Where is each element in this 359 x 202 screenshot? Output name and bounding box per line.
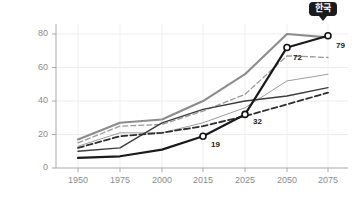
point-value-label: 72 [293,53,302,62]
point-value-label: 32 [253,117,262,126]
x-tick-label: 1950 [68,175,88,185]
x-tick-label: 2050 [277,175,297,185]
y-tick-label: 80 [38,28,48,38]
y-tick-label: 20 [38,129,48,139]
line-chart: 020406080 1950197520002015202520502075 7… [0,0,359,202]
x-tick-label: 2075 [318,175,338,185]
x-tick-label: 2000 [152,175,172,185]
korea-callout-label: 한국 [315,3,331,13]
point-value-label: 79 [336,41,345,50]
data-point-labels: 79723219 [211,41,345,149]
gridlines [56,34,348,134]
y-tick-label: 40 [38,95,48,105]
data-point-marker[interactable] [242,111,248,117]
callout-pointer-icon [319,16,327,21]
point-value-label: 19 [211,140,220,149]
x-axis-ticks: 1950197520002015202520502075 [68,24,338,185]
data-point-marker[interactable] [284,44,290,50]
chart-canvas: 020406080 1950197520002015202520502075 7… [0,0,359,202]
data-point-marker[interactable] [325,33,331,39]
y-axis-ticks: 020406080 [38,28,56,172]
korea-callout-badge[interactable]: 한국 [309,2,337,16]
data-point-markers [200,33,331,139]
y-tick-label: 0 [43,162,48,172]
x-tick-label: 2015 [193,175,213,185]
x-tick-label: 2025 [235,175,255,185]
y-tick-label: 60 [38,62,48,72]
data-point-marker[interactable] [200,133,206,139]
x-tick-label: 1975 [110,175,130,185]
